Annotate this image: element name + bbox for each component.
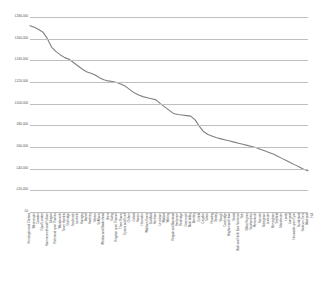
y-axis-tick-label: £160,000: [0, 37, 28, 40]
gridline: [30, 147, 308, 148]
plot-area: [30, 17, 308, 212]
series-line: [30, 17, 308, 212]
x-axis-tick-label: Bexley: [215, 213, 218, 221]
x-axis-tick-label: City of London: [41, 213, 44, 231]
x-axis-tick-label: Chiltern: [128, 213, 131, 222]
x-axis-tick-label: Brighton and Hove: [228, 213, 231, 236]
y-axis-tick-label: £100,000: [0, 102, 28, 105]
x-axis-tick-label: Kensington and Chelsea: [28, 213, 31, 243]
gridline: [30, 125, 308, 126]
x-axis-tick-label: Lambeth: [76, 213, 79, 224]
x-axis-tick-label: Redbridge: [180, 213, 183, 226]
gridline: [30, 190, 308, 191]
gridline: [30, 169, 308, 170]
x-axis-tick-label: Hull: [311, 213, 314, 218]
y-axis-tick-label: £60,000: [0, 145, 28, 148]
x-axis-tick-label: Hackney: [89, 213, 92, 224]
x-axis-tick-label: Woking: [167, 213, 170, 222]
gridline: [30, 104, 308, 105]
y-axis-tick-label: £0: [0, 210, 28, 213]
x-axis-tick-label: Newcastle upon Tyne: [293, 213, 296, 240]
x-axis-tick-label: Leicester: [267, 213, 270, 224]
x-axis-tick-label: Portsmouth: [254, 213, 257, 227]
gridline: [30, 39, 308, 40]
x-axis-tick-label: Bromley: [193, 213, 196, 223]
line-chart: £180,000£160,000£140,000£120,000£100,000…: [0, 0, 319, 282]
x-axis-tick-label: Newham: [154, 213, 157, 224]
x-axis-tick-label: Richmond upon Thames: [54, 213, 57, 244]
gridline: [30, 17, 308, 18]
x-axis-tick-label: Kingston upon Thames: [115, 213, 118, 242]
x-axis-labels: Kensington and ChelseaWestminsterCamdenC…: [30, 213, 308, 282]
y-axis-tick-label: £180,000: [0, 15, 28, 18]
x-axis-tick-label: Bath and North East Somerset: [237, 213, 240, 251]
gridline: [30, 82, 308, 83]
y-axis-tick-label: £120,000: [0, 80, 28, 83]
y-axis-tick-label: £80,000: [0, 124, 28, 127]
y-axis-tick-label: £40,000: [0, 167, 28, 170]
x-axis-tick-label: Hounslow: [141, 213, 144, 225]
x-axis-tick-label: Windsor and Maidenhead: [102, 213, 105, 245]
x-axis-tick-label: Blackpool: [306, 213, 309, 225]
gridline: [30, 60, 308, 61]
x-axis-tick-label: York: [241, 213, 244, 218]
x-axis-tick-label: Manchester: [280, 213, 283, 228]
y-axis-tick-label: £140,000: [0, 59, 28, 62]
y-axis-tick-label: £20,000: [0, 189, 28, 192]
